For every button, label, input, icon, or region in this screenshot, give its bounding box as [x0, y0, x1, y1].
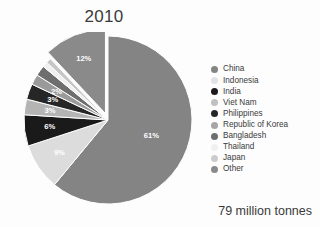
legend-swatch-icon: [211, 66, 218, 73]
legend-item[interactable]: Viet Nam: [209, 97, 320, 108]
legend-item-label: Republic of Korea: [223, 121, 288, 129]
legend-item-label: China: [223, 65, 244, 73]
legend-swatch-icon: [211, 88, 218, 95]
legend-item[interactable]: Philippines: [209, 108, 320, 119]
legend-swatch-icon: [211, 110, 218, 117]
legend-item[interactable]: Thailand: [209, 142, 320, 153]
legend-item-label: Bangladesh: [223, 132, 266, 140]
legend-item-label: Philippines: [223, 110, 263, 118]
pie-slice-label: 2%: [51, 87, 62, 96]
legend-item[interactable]: India: [209, 86, 320, 97]
legend-swatch-icon: [211, 77, 218, 84]
chart-legend: ChinaIndonesiaIndiaViet NamPhilippinesRe…: [209, 64, 320, 175]
legend-swatch-icon: [211, 155, 218, 162]
legend-item[interactable]: Republic of Korea: [209, 119, 320, 130]
pie-slice-label: 6%: [44, 122, 55, 131]
legend-swatch-icon: [211, 144, 218, 151]
legend-item-label: Indonesia: [223, 77, 259, 85]
pie-chart-figure: 2010 61%9%6%3%3%2%12% ChinaIndonesiaIndi…: [0, 0, 320, 227]
legend-item-label: Viet Nam: [223, 99, 257, 107]
pie-slice-label: 12%: [76, 54, 91, 63]
legend-swatch-icon: [211, 166, 218, 173]
pie-chart-plot: 61%9%6%3%3%2%12%: [22, 32, 200, 210]
page-title: 2010: [0, 7, 208, 27]
legend-swatch-icon: [211, 133, 218, 140]
legend-item-label: Thailand: [223, 143, 254, 151]
legend-item-label: India: [223, 88, 241, 96]
legend-item[interactable]: China: [209, 64, 320, 75]
legend-item[interactable]: Japan: [209, 153, 320, 164]
pie-slices: [24, 32, 192, 204]
pie-slice-label: 3%: [44, 106, 55, 115]
pie-slice-label: 61%: [144, 131, 159, 140]
pie-slice-label: 9%: [54, 148, 65, 157]
total-caption: 79 million tonnes: [218, 204, 312, 218]
pie-slice-label: 3%: [47, 95, 58, 104]
legend-item-label: Other: [223, 165, 243, 173]
legend-item[interactable]: Indonesia: [209, 75, 320, 86]
legend-swatch-icon: [211, 122, 218, 129]
pie-svg: 61%9%6%3%3%2%12%: [22, 32, 200, 210]
legend-swatch-icon: [211, 99, 218, 106]
legend-item[interactable]: Bangladesh: [209, 131, 320, 142]
legend-item[interactable]: Other: [209, 164, 320, 175]
legend-item-label: Japan: [223, 154, 245, 162]
